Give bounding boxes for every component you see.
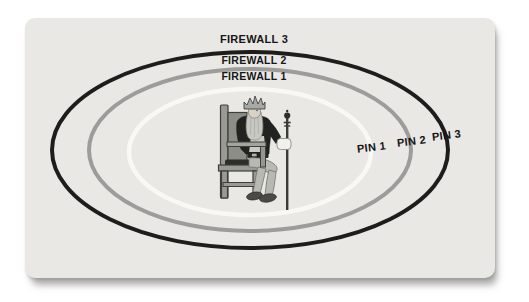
firewall-2-label: FIREWALL 2 bbox=[221, 55, 286, 66]
king-near-shin bbox=[265, 170, 276, 196]
king-belt-buckle bbox=[252, 153, 258, 157]
firewall-diagram-card: FIREWALL 3 FIREWALL 2 FIREWALL 1 PIN 1 P… bbox=[25, 18, 495, 278]
throne-stretcher bbox=[223, 183, 257, 187]
firewall-3-label: FIREWALL 3 bbox=[220, 34, 288, 45]
throne-armrest bbox=[227, 142, 266, 147]
king-eye bbox=[256, 110, 257, 111]
diagram-stage: FIREWALL 3 FIREWALL 2 FIREWALL 1 PIN 1 P… bbox=[0, 0, 529, 302]
king-glove bbox=[277, 139, 291, 150]
throne-armrest-support bbox=[261, 147, 266, 168]
king-on-throne-icon bbox=[210, 88, 310, 213]
king-crown bbox=[244, 96, 265, 109]
scepter-tip bbox=[286, 110, 288, 112]
scepter-orb bbox=[284, 112, 290, 118]
firewall-1-label: FIREWALL 1 bbox=[221, 71, 286, 82]
